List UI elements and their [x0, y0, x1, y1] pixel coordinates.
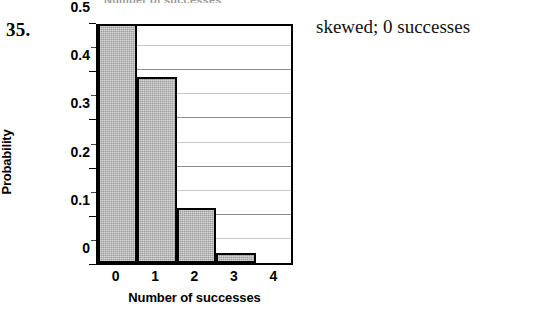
y-axis-tick-marks [86, 24, 96, 265]
y-axis-tick-mark [89, 23, 96, 24]
y-axis-tick-mark [89, 264, 96, 265]
y-axis-tick-label: 0.3 [50, 95, 90, 111]
x-axis-tick-label: 1 [135, 268, 175, 284]
y-axis-tick-mark [89, 71, 96, 72]
y-axis-tick-mark [89, 119, 96, 120]
x-axis-tick-label: 3 [214, 268, 254, 284]
y-axis-tick-mark [89, 168, 96, 169]
bar [216, 253, 255, 263]
y-axis-tick-mark [89, 216, 96, 217]
x-axis-title: Number of successes [96, 290, 293, 305]
y-axis-tick-label: 0 [50, 240, 90, 256]
x-axis-tick-label: 2 [175, 268, 215, 284]
y-axis-tick-labels: 00.10.20.30.40.5 [48, 24, 90, 265]
x-axis-tick-label: 0 [96, 268, 136, 284]
answer-text: skewed; 0 successes [316, 16, 470, 38]
x-axis-tick-labels: 01234 [96, 268, 293, 290]
histogram-figure: Probability 00.10.20.30.40.5 01234 Numbe… [0, 0, 330, 311]
y-axis-tick-label: 0.1 [50, 192, 90, 208]
x-axis-tick-label: 4 [253, 268, 293, 284]
y-axis-title: Probability [0, 102, 14, 222]
bar-series [98, 26, 291, 263]
plot-area [96, 24, 293, 265]
bar [177, 208, 216, 263]
y-axis-tick-label: 0.2 [50, 144, 90, 160]
y-axis-tick-label: 0.4 [50, 47, 90, 63]
bar [137, 77, 176, 263]
bar [98, 24, 137, 263]
y-axis-tick-label: 0.5 [50, 0, 90, 15]
